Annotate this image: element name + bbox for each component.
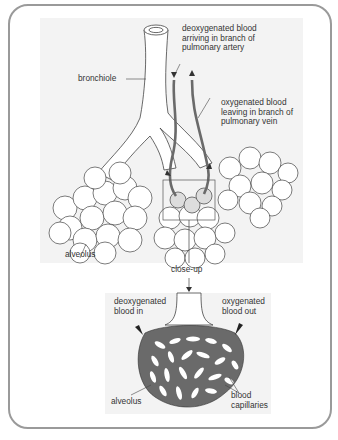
label-alveolus-bottom: alveolus bbox=[111, 397, 141, 407]
label-blood-in: deoxygenated blood in bbox=[114, 297, 166, 316]
label-blood-out: oxygenated blood out bbox=[222, 297, 265, 316]
label-close-up: close-up bbox=[171, 265, 202, 275]
capillary-closeup-panel: deoxygenated blood in oxygenated blood o… bbox=[105, 293, 271, 414]
label-blood-capillaries: blood capillaries bbox=[231, 391, 268, 410]
